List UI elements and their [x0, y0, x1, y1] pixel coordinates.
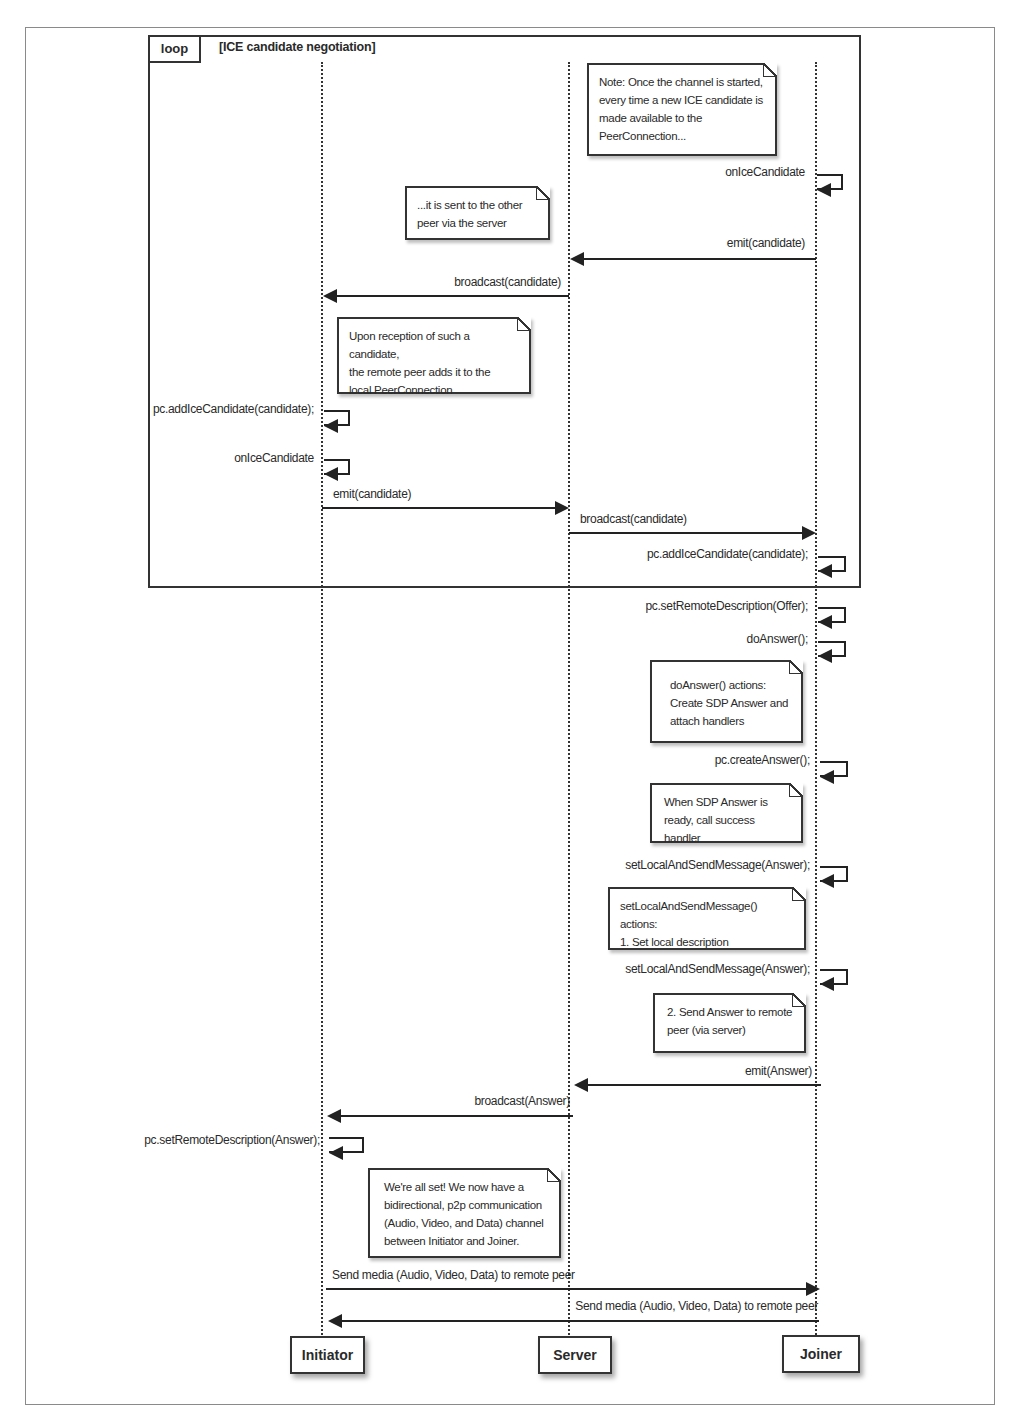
arrowhead-icon: [820, 874, 834, 888]
message-arrow: [330, 1320, 819, 1322]
note-all-set: We're all set! We now have a bidirection…: [368, 1168, 561, 1258]
arrowhead-icon: [323, 289, 337, 303]
note-line: 2. Send Answer to remote: [667, 1003, 794, 1021]
message-arrow: [576, 1084, 821, 1086]
arrowhead-icon: [555, 501, 569, 515]
note-channel-started: Note: Once the channel is started, every…: [587, 63, 777, 156]
note-line: peer via the server: [417, 214, 538, 232]
message-label: pc.setRemoteDescription(Answer);: [144, 1133, 320, 1147]
arrowhead-icon: [329, 1146, 343, 1160]
arrowhead-icon: [817, 183, 831, 197]
message-label: setLocalAndSendMessage(Answer);: [625, 858, 810, 872]
note-line: the remote peer adds it to the: [349, 363, 519, 381]
arrowhead-icon: [820, 770, 834, 784]
lifeline-joiner: [815, 62, 817, 1335]
note-line: doAnswer() actions:: [670, 676, 791, 694]
arrowhead-icon: [570, 252, 584, 266]
actor-joiner: Joiner: [782, 1335, 860, 1373]
note-line: ...it is sent to the other: [417, 196, 538, 214]
message-label: broadcast(Answer): [474, 1094, 570, 1108]
message-arrow: [322, 507, 558, 509]
note-line: every time a new ICE candidate is: [599, 91, 765, 109]
message-arrow: [569, 532, 805, 534]
note-line: local PeerConnection: [349, 381, 519, 399]
message-arrow: [329, 1115, 573, 1117]
message-label: setLocalAndSendMessage(Answer);: [625, 962, 810, 976]
note-line: Create SDP Answer and: [670, 694, 791, 712]
message-label: Send media (Audio, Video, Data) to remot…: [332, 1268, 575, 1282]
note-doanswer-actions: doAnswer() actions: Create SDP Answer an…: [650, 660, 803, 743]
arrowhead-icon: [574, 1078, 588, 1092]
arrowhead-icon: [820, 977, 834, 991]
note-line: (Audio, Video, and Data) channel: [384, 1214, 549, 1232]
message-label: broadcast(candidate): [580, 512, 687, 526]
arrowhead-icon: [327, 1109, 341, 1123]
arrowhead-icon: [328, 1314, 342, 1328]
note-line: We're all set! We now have a: [384, 1178, 549, 1196]
note-send-answer: 2. Send Answer to remote peer (via serve…: [653, 993, 806, 1053]
note-line: When SDP Answer is: [664, 793, 791, 811]
message-label: Send media (Audio, Video, Data) to remot…: [575, 1299, 818, 1313]
note-line: Note: Once the channel is started,: [599, 73, 765, 91]
message-label: onIceCandidate: [234, 451, 314, 465]
message-label: onIceCandidate: [725, 165, 805, 179]
message-label: pc.setRemoteDescription(Offer);: [645, 599, 808, 613]
message-label: pc.addIceCandidate(candidate);: [153, 402, 314, 416]
message-arrow: [572, 258, 816, 260]
message-label: broadcast(candidate): [454, 275, 561, 289]
note-line: attach handlers: [670, 712, 791, 730]
loop-condition: [ICE candidate negotiation]: [219, 40, 375, 54]
arrowhead-icon: [806, 1282, 820, 1296]
lifeline-initiator: [321, 62, 323, 1335]
note-line: PeerConnection...: [599, 127, 765, 145]
note-line: Upon reception of such a candidate,: [349, 327, 519, 363]
note-line: bidirectional, p2p communication: [384, 1196, 549, 1214]
arrowhead-icon: [324, 467, 338, 481]
arrowhead-icon: [818, 564, 832, 578]
message-label: emit(Answer): [745, 1064, 812, 1078]
message-arrow: [326, 1288, 808, 1290]
message-label: emit(candidate): [333, 487, 411, 501]
actor-initiator: Initiator: [290, 1336, 365, 1374]
message-label: pc.addIceCandidate(candidate);: [647, 547, 808, 561]
message-label: pc.createAnswer();: [715, 753, 810, 767]
actor-server: Server: [538, 1336, 612, 1374]
arrowhead-icon: [818, 649, 832, 663]
note-line: 1. Set local description: [620, 933, 794, 951]
message-arrow: [325, 295, 569, 297]
note-upon-reception: Upon reception of such a candidate, the …: [337, 317, 531, 394]
note-line: peer (via server): [667, 1021, 794, 1039]
loop-tag: loop: [148, 35, 201, 63]
note-line: setLocalAndSendMessage() actions:: [620, 897, 794, 933]
note-line: between Initiator and Joiner.: [384, 1232, 549, 1250]
note-setlocal-actions: setLocalAndSendMessage() actions: 1. Set…: [608, 887, 806, 950]
message-label: emit(candidate): [727, 236, 805, 250]
note-sdp-ready: When SDP Answer is ready, call success h…: [650, 783, 803, 843]
arrowhead-icon: [802, 526, 816, 540]
arrowhead-icon: [818, 615, 832, 629]
note-sent-to-peer: ...it is sent to the other peer via the …: [405, 186, 550, 240]
note-line: ready, call success handler: [664, 811, 791, 847]
note-line: made available to the: [599, 109, 765, 127]
arrowhead-icon: [324, 419, 338, 433]
message-label: doAnswer();: [747, 632, 808, 646]
